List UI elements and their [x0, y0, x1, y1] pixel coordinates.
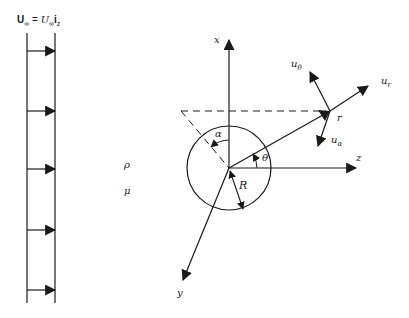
infinity-subscript: ∞	[24, 20, 29, 27]
alpha-label: α	[215, 129, 222, 139]
position-vector-r	[229, 111, 330, 168]
freestream-magnitude: U	[41, 14, 49, 25]
density-label: ρ	[124, 160, 130, 170]
radius-label: R	[239, 180, 247, 191]
y-axis-label: y	[177, 288, 183, 298]
viscosity-label: μ	[124, 186, 131, 196]
unit-vector-subscript: z	[57, 20, 61, 27]
alpha-arc	[211, 140, 229, 147]
uniform-flow	[27, 33, 55, 303]
z-axis-label: z	[356, 153, 361, 163]
theta-arc	[253, 154, 257, 168]
u-alpha-label: uα	[331, 135, 342, 148]
sphere-flow-diagram: U∞ = U∞iz ρ μ x z y α θ R r ur uθ uα	[0, 0, 409, 318]
theta-label: θ	[262, 153, 268, 163]
u-theta-vector	[310, 72, 330, 111]
diagram-canvas	[0, 0, 409, 318]
x-axis-label: x	[214, 35, 220, 45]
point-r-label: r	[337, 113, 342, 123]
u-r-label: ur	[381, 76, 391, 89]
u-theta-label: uθ	[291, 59, 302, 72]
freestream-velocity-equation: U∞ = U∞iz	[17, 14, 60, 27]
equals-sign: =	[32, 14, 38, 25]
u-r-vector	[330, 86, 368, 111]
